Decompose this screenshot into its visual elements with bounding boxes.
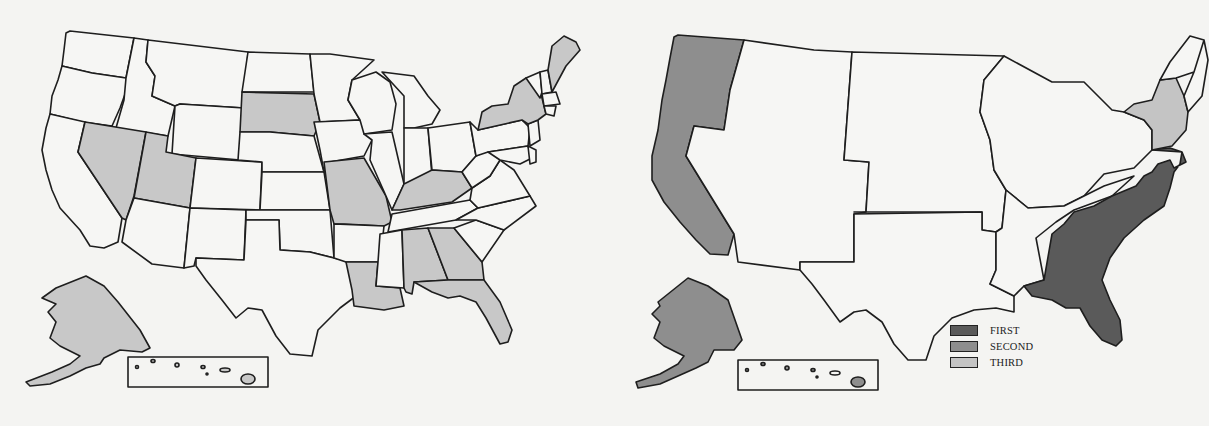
legend-item-third: THIRD — [950, 354, 1033, 370]
hawaii-island — [816, 376, 818, 378]
state-montana — [146, 40, 248, 108]
hawaii-island — [830, 371, 840, 375]
hawaii-island — [785, 366, 789, 370]
hawaii-island — [136, 366, 139, 369]
legend-label-first: FIRST — [990, 325, 1020, 336]
region-alaska — [636, 278, 742, 388]
state-kansas — [260, 172, 330, 210]
state-connecticut — [544, 106, 556, 116]
state-maine — [548, 36, 580, 92]
state-delaware — [528, 146, 536, 164]
hawaii-island — [201, 366, 205, 369]
legend-swatch-third — [950, 357, 978, 368]
map-legend: FIRST SECOND THIRD — [950, 322, 1033, 370]
legend-swatch-first — [950, 325, 978, 336]
hawaii-island — [175, 363, 179, 367]
legend-item-second: SECOND — [950, 338, 1033, 354]
legend-swatch-second — [950, 341, 978, 352]
state-mississippi — [376, 230, 404, 288]
hawaii-island — [151, 360, 155, 363]
state-arkansas — [334, 224, 384, 262]
state-alaska — [26, 276, 150, 386]
hawaii-island — [241, 374, 255, 384]
legend-label-third: THIRD — [990, 357, 1023, 368]
hawaii-island — [220, 368, 230, 372]
state-north-dakota — [242, 52, 314, 92]
state-massachusetts — [542, 92, 560, 106]
state-arizona — [122, 198, 190, 268]
state-colorado — [190, 158, 262, 210]
region-west-north-central — [844, 52, 1006, 232]
state-south-dakota — [240, 92, 320, 136]
states-map-svg — [0, 0, 604, 426]
state-wyoming — [172, 104, 244, 160]
regions-map-svg — [604, 0, 1209, 426]
hawaii-island — [761, 363, 765, 366]
legend-item-first: FIRST — [950, 322, 1033, 338]
hawaii-island — [206, 373, 208, 375]
hawaii-island — [811, 369, 815, 372]
states-map — [0, 0, 604, 426]
hawaii-island — [746, 369, 749, 372]
hawaii-island — [851, 377, 865, 387]
region-east-north-central — [980, 56, 1152, 208]
regions-map — [604, 0, 1209, 426]
state-florida — [414, 280, 512, 344]
legend-label-second: SECOND — [990, 341, 1033, 352]
